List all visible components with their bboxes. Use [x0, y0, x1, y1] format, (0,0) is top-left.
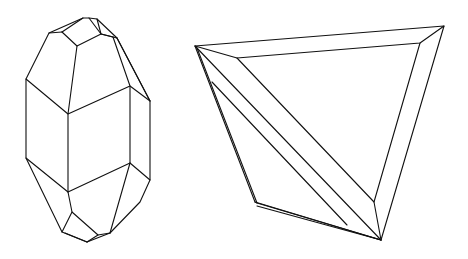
- crystal-figure: [0, 0, 468, 259]
- background: [0, 0, 468, 259]
